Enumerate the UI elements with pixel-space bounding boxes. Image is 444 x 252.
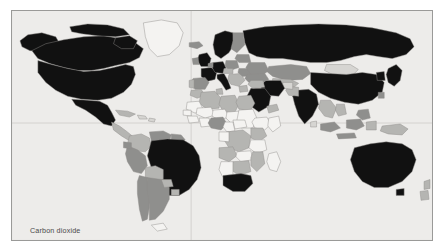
island-other-caribbean: [148, 118, 155, 122]
country-ireland: [192, 58, 199, 65]
country-taiwan: [378, 92, 384, 98]
country-portugal: [189, 79, 194, 88]
country-korea: [376, 71, 385, 80]
country-gabon-congo: [219, 132, 229, 142]
country-indonesia-sulawesi: [366, 121, 376, 130]
country-ecuador: [123, 142, 131, 149]
country-indonesia-java: [336, 133, 356, 139]
country-greece: [239, 85, 248, 92]
country-egypt: [236, 95, 255, 110]
country-senegal-gambia: [183, 110, 191, 116]
world-map: .c{stroke:#8e8d8a;stroke-width:.45;strok…: [12, 11, 432, 240]
country-sri-lanka: [311, 121, 317, 127]
country-tunisia: [216, 88, 223, 94]
country-guinea-sierraleone: [187, 116, 199, 123]
country-uruguay: [171, 189, 179, 195]
country-benelux: [208, 63, 213, 68]
figure-root: .c{stroke:#8e8d8a;stroke-width:.45;strok…: [0, 0, 444, 252]
country-czech-austria: [223, 68, 233, 73]
world-map-figure: .c{stroke:#8e8d8a;stroke-width:.45;strok…: [11, 10, 433, 241]
country-tasmania: [396, 188, 404, 195]
